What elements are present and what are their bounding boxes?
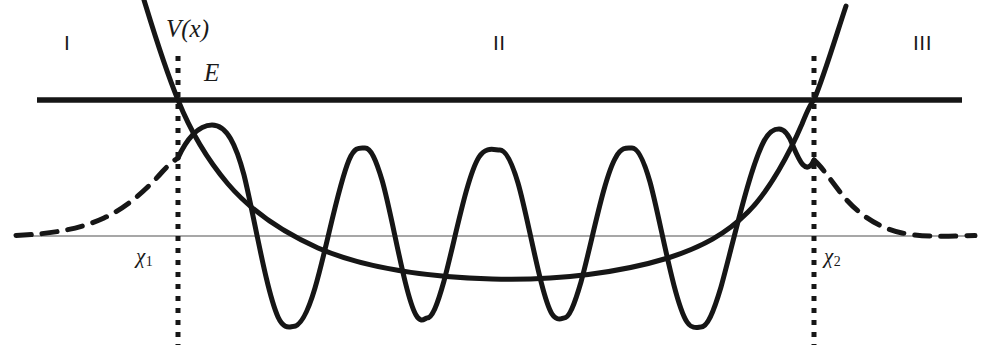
region-label-ii: II <box>493 32 506 53</box>
turning-point-subscript-1: 1 <box>145 254 153 269</box>
wavefunction-left-tail <box>16 158 178 236</box>
potential-curve-label: V(x) <box>166 16 209 41</box>
turning-point-label-chi1: χ1 <box>136 246 153 269</box>
wkb-diagram-figure: I II III V(x) E χ1 χ2 <box>0 0 991 357</box>
region-label-iii: III <box>913 32 932 53</box>
turning-point-symbol-chi2: χ <box>824 244 833 268</box>
turning-point-subscript-2: 2 <box>833 254 841 269</box>
turning-point-label-chi2: χ2 <box>824 246 841 269</box>
wavefunction-right-tail <box>814 160 975 236</box>
energy-level-label: E <box>204 60 219 85</box>
region-label-i: I <box>64 32 70 53</box>
turning-point-symbol-chi1: χ <box>136 244 145 268</box>
